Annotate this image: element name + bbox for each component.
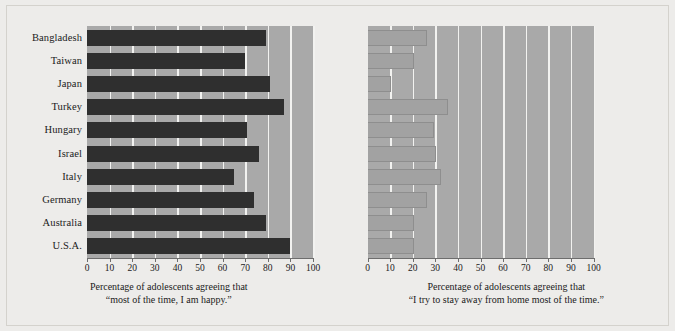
plot-area-left bbox=[87, 26, 313, 258]
x-tick-label: 50 bbox=[476, 263, 486, 273]
bars-right bbox=[368, 26, 594, 258]
bar bbox=[368, 76, 392, 92]
x-tick bbox=[571, 258, 572, 262]
x-tick bbox=[435, 258, 436, 262]
chart-panel-happy: Bangladesh Taiwan Japan Turkey Hungary I… bbox=[0, 0, 338, 331]
gridline bbox=[313, 26, 315, 258]
category-label: Bangladesh bbox=[10, 30, 82, 46]
chart-panel-away-from-home: 0102030405060708090100 Percentage of ado… bbox=[338, 0, 675, 331]
x-tick bbox=[548, 258, 549, 262]
bar bbox=[368, 238, 414, 254]
bar bbox=[368, 192, 428, 208]
x-tick-label: 80 bbox=[544, 263, 554, 273]
bar-row bbox=[368, 122, 594, 138]
x-tick-label: 100 bbox=[586, 263, 600, 273]
x-tick-label: 20 bbox=[408, 263, 418, 273]
x-tick-label: 0 bbox=[85, 263, 90, 273]
bar bbox=[87, 99, 284, 115]
x-tick bbox=[177, 258, 178, 262]
category-axis-labels-left: Bangladesh Taiwan Japan Turkey Hungary I… bbox=[10, 26, 82, 258]
x-tick-label: 30 bbox=[150, 263, 160, 273]
x-tick bbox=[503, 258, 504, 262]
x-tick-label: 10 bbox=[105, 263, 115, 273]
bar-row bbox=[87, 76, 313, 92]
category-label: U.S.A. bbox=[10, 238, 82, 254]
x-tick bbox=[526, 258, 527, 262]
figure-container: Bangladesh Taiwan Japan Turkey Hungary I… bbox=[0, 0, 675, 331]
caption-line-1: Percentage of adolescents agreeing that bbox=[427, 281, 585, 292]
x-tick-label: 100 bbox=[306, 263, 320, 273]
x-tick bbox=[413, 258, 414, 262]
bar-row bbox=[368, 76, 594, 92]
x-tick-label: 50 bbox=[195, 263, 205, 273]
x-tick-label: 70 bbox=[521, 263, 531, 273]
x-tick bbox=[390, 258, 391, 262]
x-tick bbox=[200, 258, 201, 262]
bar-row bbox=[368, 30, 594, 46]
x-tick bbox=[268, 258, 269, 262]
x-tick-label: 40 bbox=[173, 263, 183, 273]
x-tick-label: 90 bbox=[286, 263, 296, 273]
x-tick-label: 80 bbox=[263, 263, 273, 273]
x-tick bbox=[313, 258, 314, 262]
bar-row bbox=[87, 192, 313, 208]
bar bbox=[368, 215, 414, 231]
bar-row bbox=[87, 215, 313, 231]
category-label: Taiwan bbox=[10, 53, 82, 69]
bar-row bbox=[368, 215, 594, 231]
caption-line-1: Percentage of adolescents agreeing that bbox=[90, 281, 248, 292]
category-label: Turkey bbox=[10, 99, 82, 115]
plot-area-right bbox=[368, 26, 594, 258]
x-tick bbox=[368, 258, 369, 262]
category-label: Italy bbox=[10, 169, 82, 185]
bar-row bbox=[368, 146, 594, 162]
caption-right: Percentage of adolescents agreeing that … bbox=[338, 281, 675, 306]
panels-row: Bangladesh Taiwan Japan Turkey Hungary I… bbox=[0, 0, 675, 331]
category-label: Israel bbox=[10, 146, 82, 162]
bar-row bbox=[368, 53, 594, 69]
bar-row bbox=[87, 30, 313, 46]
caption-left: Percentage of adolescents agreeing that … bbox=[0, 281, 338, 306]
x-tick bbox=[481, 258, 482, 262]
bar bbox=[368, 122, 435, 138]
bar bbox=[87, 53, 245, 69]
bar bbox=[87, 30, 266, 46]
bar bbox=[368, 53, 414, 69]
x-tick bbox=[155, 258, 156, 262]
x-tick-label: 10 bbox=[385, 263, 395, 273]
x-tick-label: 40 bbox=[453, 263, 463, 273]
x-tick-label: 20 bbox=[127, 263, 137, 273]
x-tick bbox=[110, 258, 111, 262]
x-tick bbox=[87, 258, 88, 262]
x-axis-ticks-left: 0102030405060708090100 bbox=[87, 258, 313, 276]
bar bbox=[368, 30, 428, 46]
bar bbox=[87, 146, 259, 162]
bar bbox=[368, 146, 437, 162]
bar-row bbox=[87, 53, 313, 69]
bar bbox=[368, 99, 448, 115]
bar-row bbox=[368, 169, 594, 185]
bar-row bbox=[368, 238, 594, 254]
caption-line-2: “I try to stay away from home most of th… bbox=[338, 294, 675, 307]
x-tick-label: 90 bbox=[566, 263, 576, 273]
bar-row bbox=[368, 99, 594, 115]
caption-line-2: “most of the time, I am happy.” bbox=[0, 294, 338, 307]
bar-row bbox=[87, 238, 313, 254]
bar-row bbox=[87, 99, 313, 115]
x-axis-ticks-right: 0102030405060708090100 bbox=[368, 258, 594, 276]
category-label: Japan bbox=[10, 76, 82, 92]
category-label: Hungary bbox=[10, 122, 82, 138]
bars-left bbox=[87, 26, 313, 258]
bar bbox=[368, 169, 441, 185]
bar bbox=[87, 215, 266, 231]
x-tick bbox=[245, 258, 246, 262]
x-tick-label: 60 bbox=[498, 263, 508, 273]
bar-row bbox=[87, 122, 313, 138]
bar bbox=[87, 169, 234, 185]
x-tick bbox=[458, 258, 459, 262]
bar-row bbox=[368, 192, 594, 208]
x-tick bbox=[290, 258, 291, 262]
x-tick bbox=[223, 258, 224, 262]
bar-row bbox=[87, 169, 313, 185]
x-tick-label: 30 bbox=[431, 263, 441, 273]
